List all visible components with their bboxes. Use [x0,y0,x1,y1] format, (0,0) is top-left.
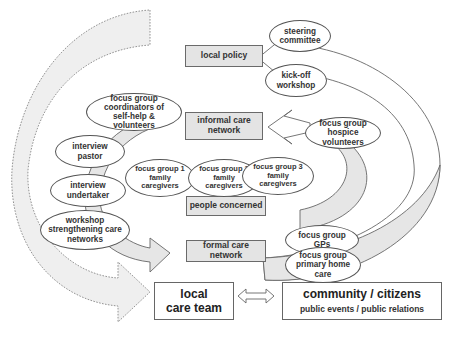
fg-hospice-oval: focus group hospice volunteers [305,117,381,149]
steering-committee-label: steering committee [280,27,321,45]
fg-family3-oval: focus group 3 family caregivers [242,157,314,195]
fg-coordinators-oval: focus group coordinators of self-help & … [86,93,182,131]
community-subtitle: public events / public relations [300,305,424,315]
formal-care-network-box: formal care network [186,240,266,262]
local-care-team-label: local care team [166,287,222,316]
local-policy-label: local policy [201,51,247,61]
fg-family3-label: focus group 3 family caregivers [253,163,303,188]
fg-coordinators-label: focus group coordinators of self-help & … [104,94,164,131]
steering-committee-oval: steering committee [269,20,331,52]
kickoff-workshop-label: kick-off workshop [277,71,316,89]
informal-care-network-box: informal care network [185,112,263,140]
interview-undertaker-label: interview undertaker [67,181,109,199]
informal-care-network-label: informal care network [197,116,250,136]
inner-arc [300,140,367,230]
fg-family1-oval: focus group 1 family caregivers [125,159,195,197]
people-concerned-label: people concerned [190,201,263,211]
kickoff-workshop-oval: kick-off workshop [265,64,327,97]
fg-hospice-label: focus group hospice volunteers [319,119,366,147]
community-title: community / citizens [303,287,421,301]
community-citizens-box: community / citizens public events / pub… [282,282,442,320]
formal-care-network-label: formal care network [187,241,265,261]
fg-primary-home-care-oval: focus group primary home care [285,247,361,283]
workshop-networks-label: workshop strengthening care networks [48,216,122,244]
double-arrow [238,289,274,303]
people-concerned-box: people concerned [186,196,266,216]
local-care-team-box: local care team [154,282,234,320]
workshop-networks-oval: workshop strengthening care networks [40,210,130,250]
hospice-arrow [268,110,310,144]
local-policy-box: local policy [185,45,263,67]
fg-primary-home-care-label: focus group primary home care [296,251,350,279]
interview-pastor-oval: interview pastor [55,135,125,168]
fg-family1-label: focus group 1 family caregivers [135,165,185,190]
interview-pastor-label: interview pastor [72,142,108,160]
interview-undertaker-oval: interview undertaker [50,174,126,207]
